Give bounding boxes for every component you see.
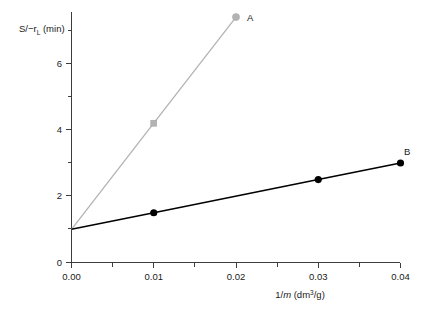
chart-figure: 0 2 4 6 0.00 0.01 0.02 0.03 0.04 S/−rL (…	[0, 0, 429, 316]
series-a-label: A	[247, 12, 254, 23]
x-tick-label-003: 0.03	[309, 271, 328, 282]
x-tick-label-004: 0.04	[391, 271, 410, 282]
x-axis-title: 1/m (dm3/g)	[275, 289, 325, 300]
series-b-label: B	[404, 146, 410, 157]
x-tick-label-002: 0.02	[227, 271, 246, 282]
series-b-line	[72, 163, 401, 229]
y-tick-label-0: 0	[57, 257, 62, 268]
series-a-marker-1	[151, 120, 157, 126]
y-axis-title-units: (min)	[43, 23, 65, 34]
series-b-marker-2	[315, 176, 322, 183]
x-tick-label-001: 0.01	[145, 271, 164, 282]
line-chart: 0 2 4 6 0.00 0.01 0.02 0.03 0.04 S/−rL (…	[0, 0, 429, 316]
series-b-marker-1	[150, 209, 157, 216]
x-axis-major-ticks	[72, 263, 401, 269]
y-axis-title-main: S/−r	[19, 23, 37, 34]
x-axis-title-units-open: (dm	[294, 289, 310, 300]
y-axis-title: S/−rL (min)	[19, 23, 65, 36]
series-a-group: A	[72, 12, 255, 229]
y-tick-label-2: 2	[57, 190, 62, 201]
y-tick-label-6: 6	[57, 58, 62, 69]
x-axis-title-units-close: /g)	[314, 289, 325, 300]
series-b-group: B	[72, 146, 411, 229]
series-a-marker-2	[232, 13, 239, 20]
x-tick-label-000: 0.00	[62, 271, 81, 282]
y-tick-label-4: 4	[57, 124, 62, 135]
x-axis-title-variable: m	[283, 289, 291, 300]
series-b-marker-3	[397, 159, 404, 166]
